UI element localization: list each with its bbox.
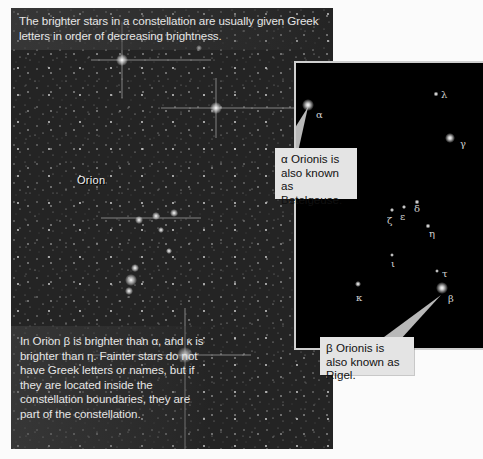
star-label-tau: τ [442,268,448,279]
star-label-lambda: λ [441,89,447,100]
constellation-star-map [296,63,483,352]
betelgeuse-callout: α Orionis is also known as Betelgeuse. [275,148,357,199]
bottom-caption: In Orion β is brighter than α, and κ is … [20,334,210,422]
star-label-alpha: α [316,109,323,120]
star-label-epsilon: ε [400,211,405,222]
star-label-iota: ι [391,258,395,269]
constellation-label: Orion [77,174,105,186]
alpha-pointer [296,107,308,152]
top-caption: The brighter stars in a constellation ar… [19,14,319,43]
orion-photograph: The brighter stars in a constellation ar… [11,8,333,449]
star-label-eta: η [429,228,435,239]
rigel-callout: β Orionis is also known as Rigel. [320,337,414,375]
star-label-delta: δ [414,203,420,214]
star-label-beta: β [448,293,454,304]
star-label-zeta: ζ [387,215,392,226]
star-label-kappa: κ [356,292,362,303]
beta-pointer [380,295,441,340]
star-label-gamma: γ [460,138,466,149]
